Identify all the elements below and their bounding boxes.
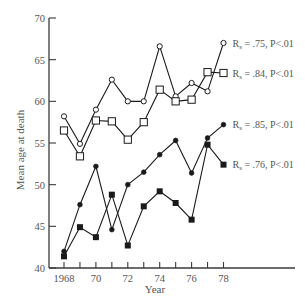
filled-square-marker	[157, 188, 163, 194]
open-circle-marker	[125, 99, 130, 104]
filled-square-marker	[189, 217, 195, 223]
filled-square-marker	[173, 200, 179, 206]
x-tick-label: 72	[123, 273, 134, 284]
filled-square-marker	[93, 234, 99, 240]
correlation-annotation: Rs = .76, P<.01	[233, 159, 294, 172]
filled-square-marker	[125, 243, 131, 249]
open-square-marker	[188, 96, 195, 103]
open-circle-marker	[189, 80, 194, 85]
correlation-annotation: Rs = .84, P<.01	[233, 68, 294, 81]
open-square-marker	[220, 69, 227, 76]
x-tick-label: 76	[186, 273, 197, 284]
line-chart-svg: 4045505560657019687072747678 Rs = .75, P…	[0, 0, 305, 305]
series-group	[60, 40, 227, 259]
correlation-annotation: Rs = .85, P<.01	[233, 119, 294, 132]
filled-square-marker	[141, 203, 147, 209]
filled-circle-marker	[94, 164, 99, 169]
x-tick-label: 78	[218, 273, 229, 284]
filled-circle-marker	[141, 170, 146, 175]
series-line	[64, 72, 224, 156]
filled-circle-marker	[205, 136, 210, 141]
open-circle-marker	[141, 99, 146, 104]
y-axis-title: Mean age at death	[14, 109, 26, 190]
y-tick-label: 55	[35, 138, 46, 149]
filled-square-marker	[205, 142, 211, 148]
filled-circle-marker	[189, 171, 194, 176]
y-tick-label: 40	[35, 263, 46, 274]
open-square-marker	[124, 136, 131, 143]
open-square-marker	[108, 118, 115, 125]
filled-circle-marker	[173, 138, 178, 143]
filled-square-marker	[221, 162, 227, 168]
filled-circle-marker	[109, 227, 114, 232]
open-square-marker	[76, 153, 83, 160]
series-line	[64, 145, 224, 257]
filled-square-marker	[77, 224, 83, 230]
filled-square-marker	[109, 192, 115, 198]
series-open-square	[60, 69, 227, 160]
open-square-marker	[172, 98, 179, 105]
filled-circle-marker	[125, 182, 130, 187]
open-circle-marker	[93, 107, 98, 112]
open-circle-marker	[77, 141, 82, 146]
open-circle-marker	[109, 77, 114, 82]
series-line	[64, 43, 224, 144]
filled-circle-marker	[221, 122, 226, 127]
x-axis-title: Year	[145, 283, 166, 295]
open-square-marker	[92, 117, 99, 124]
chart: 4045505560657019687072747678 Rs = .75, P…	[0, 0, 305, 305]
filled-square-marker	[61, 253, 67, 259]
x-tick-label: 70	[91, 273, 102, 284]
open-square-marker	[156, 86, 163, 93]
y-tick-label: 70	[35, 13, 46, 24]
filled-circle-marker	[78, 202, 83, 207]
series-filled-square	[61, 142, 227, 260]
annotations-group: Rs = .75, P<.01Rs = .84, P<.01Rs = .85, …	[233, 38, 294, 173]
series-open-circle	[61, 40, 226, 146]
open-square-marker	[140, 119, 147, 126]
open-circle-marker	[157, 44, 162, 49]
axes: 4045505560657019687072747678	[35, 13, 296, 284]
x-tick-label: 1968	[54, 273, 75, 284]
open-circle-marker	[221, 40, 226, 45]
open-square-marker	[60, 127, 67, 134]
y-tick-label: 60	[35, 96, 46, 107]
y-tick-label: 45	[35, 221, 46, 232]
y-tick-label: 50	[35, 180, 46, 191]
correlation-annotation: Rs = .75, P<.01	[233, 38, 294, 51]
open-square-marker	[204, 69, 211, 76]
open-circle-marker	[61, 114, 66, 119]
y-tick-label: 65	[35, 55, 46, 66]
open-circle-marker	[205, 89, 210, 94]
filled-circle-marker	[157, 152, 162, 157]
